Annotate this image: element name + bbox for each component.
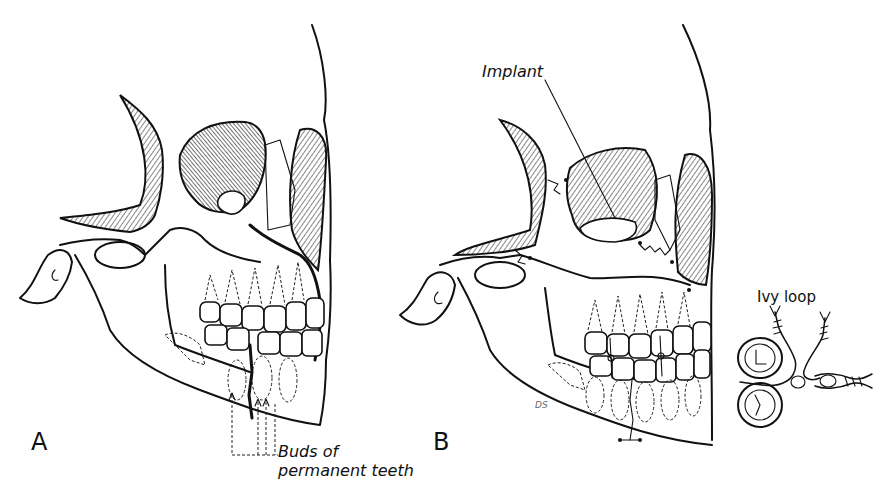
- implant-label: Implant: [482, 62, 543, 81]
- panel-label-b: B: [433, 428, 449, 456]
- artist-signature: DS: [535, 400, 548, 410]
- medical-illustration-figure: A B Buds of permanent teeth Implant Ivy …: [0, 0, 889, 490]
- buds-label-line-2: permanent teeth: [278, 461, 414, 480]
- skull-view-b: [400, 25, 714, 445]
- ivy-loop-label: Ivy loop: [757, 288, 816, 306]
- panel-label-a: A: [31, 428, 47, 456]
- buds-of-permanent-teeth-label: Buds of permanent teeth: [278, 442, 414, 480]
- ivy-loop-detail: [738, 306, 872, 427]
- upper-teeth-b: [585, 322, 711, 358]
- buds-label-line-1: Buds of: [278, 442, 414, 461]
- skull-view-a: [20, 25, 331, 455]
- lower-teeth-a: [205, 325, 322, 356]
- skull-illustrations: [0, 0, 889, 490]
